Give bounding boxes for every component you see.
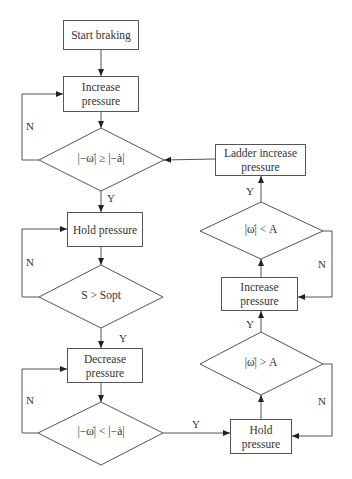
increase-pressure-label-1: Increase pressure [71,80,131,108]
d4-no-label: N [318,395,326,407]
increase-pressure-label-2: Increase pressure [230,280,290,308]
d2-no-label: N [26,256,34,268]
decision-5-condition: |ω̇| < A [231,223,291,235]
decision-1-condition: |−ω̇| ≥ |−ȧ| [61,152,141,164]
start-braking-box: Start braking [63,20,139,50]
decision-3-condition: |−ω̇| < |−ȧ| [61,425,141,437]
decrease-pressure-box: Decrease pressure [67,348,143,383]
decision-2-condition: S > Sopt [61,289,141,301]
hold-pressure-label-1: Hold pressure [73,223,137,237]
d3-yes-label: Y [192,418,200,430]
hold-pressure-label-2: Hold pressure [236,423,286,451]
hold-pressure-box-2: Hold pressure [230,419,292,454]
ladder-increase-pressure-box: Ladder increase pressure [215,144,306,176]
d5-yes-label: Y [246,185,254,197]
d1-no-label: N [26,120,34,132]
increase-pressure-box-1: Increase pressure [63,76,139,112]
d3-no-label: N [26,394,34,406]
flowchart-connectors [0,0,352,479]
hold-pressure-box-1: Hold pressure [67,212,143,247]
d4-yes-label: Y [246,318,254,330]
decrease-pressure-label: Decrease pressure [75,352,135,380]
d1-yes-label: Y [107,192,115,204]
d5-no-label: N [318,258,326,270]
increase-pressure-box-2: Increase pressure [221,277,298,311]
d2-yes-label: Y [119,332,127,344]
start-braking-label: Start braking [71,28,131,42]
decision-4-condition: |ω̇| > A [231,356,291,368]
ladder-increase-pressure-label: Ladder increase pressure [218,146,304,174]
